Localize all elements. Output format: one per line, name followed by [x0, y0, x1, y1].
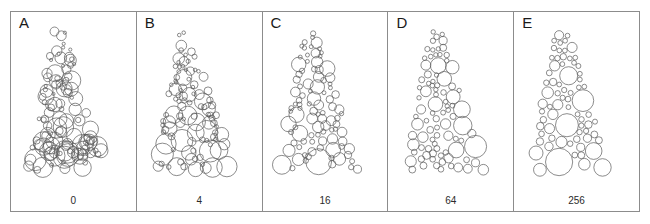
panel-letter-a: A [19, 15, 29, 32]
packed-circle [577, 85, 582, 90]
packed-circle [181, 163, 188, 170]
packed-circle [199, 72, 208, 81]
packed-circle [542, 87, 554, 99]
packed-circle [173, 64, 178, 69]
packed-circle [550, 78, 557, 86]
packed-circle [449, 83, 456, 90]
packed-circle [328, 86, 332, 90]
packed-circle [444, 52, 449, 58]
packed-circle [305, 149, 331, 175]
packed-circle [151, 143, 173, 165]
packed-circle [313, 72, 324, 83]
packed-circle [545, 142, 553, 150]
panel-value-d: 64 [388, 195, 513, 206]
packed-circle [431, 30, 435, 34]
packed-circle [173, 53, 185, 65]
packed-circle [424, 118, 429, 123]
packed-circle [348, 165, 353, 170]
packed-circle [427, 81, 431, 85]
packed-circle [537, 122, 545, 130]
packed-circle [434, 146, 440, 152]
packed-circle [419, 77, 425, 83]
packed-circle [563, 38, 568, 43]
circle-packing-plot-a [11, 12, 136, 211]
packed-circle [585, 121, 593, 129]
packed-circle [545, 124, 555, 134]
packed-circle [529, 146, 543, 160]
packed-circle [568, 56, 573, 61]
packed-circle [547, 70, 553, 76]
panel-b: B 4 [137, 12, 263, 211]
packed-circle [575, 112, 580, 117]
packed-circle [218, 139, 229, 150]
packed-circle [552, 38, 557, 43]
packed-circle [572, 152, 578, 158]
packed-circle [50, 27, 59, 36]
packed-circle [538, 99, 547, 108]
packed-circle [464, 164, 473, 173]
packed-circle [457, 88, 461, 92]
packed-circle [577, 143, 585, 151]
packed-circle [333, 153, 345, 166]
packed-circle [177, 65, 181, 69]
packed-circle [40, 84, 53, 97]
packed-circle [291, 57, 305, 72]
packed-circle [578, 77, 583, 82]
packed-circle [454, 116, 472, 135]
packed-circle [69, 103, 81, 115]
packed-circle [44, 84, 47, 87]
packed-circle [344, 151, 351, 158]
packed-circle [562, 87, 567, 92]
packed-circle [577, 129, 582, 134]
panel-letter-e: E [522, 15, 532, 32]
packed-circle [421, 60, 431, 70]
packed-circle [409, 166, 416, 173]
packed-circle [328, 161, 335, 168]
packed-circle [420, 162, 427, 169]
packed-circle [426, 146, 432, 153]
packed-circle [454, 136, 459, 141]
packed-circle [311, 37, 322, 48]
packed-circle [544, 80, 549, 86]
panel-value-b: 4 [137, 195, 262, 206]
packed-circle [438, 52, 442, 56]
packed-circle [439, 36, 447, 44]
packed-circle [560, 62, 565, 67]
packed-circle [305, 53, 309, 57]
packed-circle [565, 33, 570, 38]
packed-circle [444, 99, 449, 104]
packed-circle [190, 81, 198, 89]
packed-circle [556, 136, 567, 147]
packed-circle [302, 40, 307, 45]
packed-circle [572, 60, 577, 65]
packed-circle [546, 148, 573, 175]
packed-circle [176, 40, 187, 51]
packed-circle [550, 55, 555, 60]
packed-circle [187, 48, 195, 56]
packed-circle [169, 83, 181, 95]
packed-circle [439, 153, 444, 158]
panel-value-c: 16 [263, 195, 388, 206]
packed-circle [472, 159, 480, 167]
packed-circle [445, 58, 450, 63]
packed-circle [536, 138, 543, 146]
packed-circle [353, 165, 361, 173]
panel-value-e: 256 [514, 195, 639, 206]
packed-circle [558, 41, 563, 46]
packed-circle [315, 66, 323, 74]
packed-circle [572, 90, 594, 112]
packed-circle [550, 61, 560, 71]
packed-circle [423, 56, 428, 61]
packed-circle [421, 86, 432, 97]
packed-circle [193, 68, 197, 72]
packed-circle [202, 103, 215, 116]
packed-circle [435, 132, 441, 138]
packed-circle [325, 142, 340, 157]
packed-circle [305, 59, 309, 63]
packed-circle [594, 159, 611, 177]
packed-circle [549, 135, 555, 142]
packed-circle [579, 158, 591, 170]
packed-circle [557, 48, 562, 53]
packed-circle [168, 158, 186, 176]
packed-circle [563, 48, 568, 53]
